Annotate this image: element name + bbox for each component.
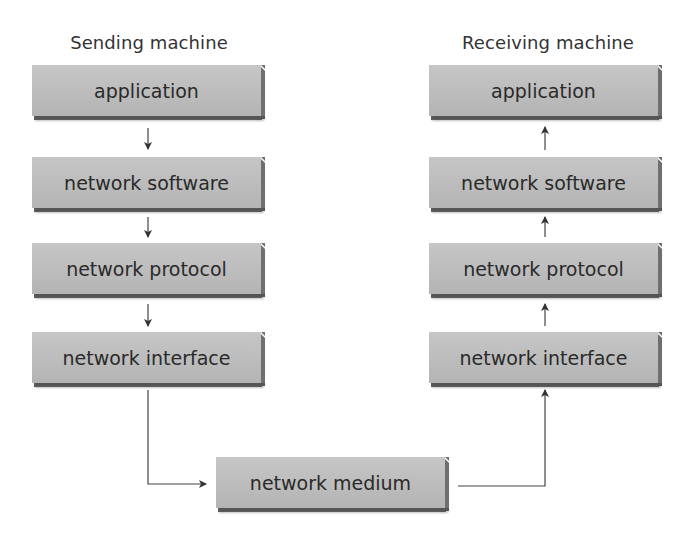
arrow-right-icon [148, 390, 206, 484]
connector-arrows [0, 0, 691, 549]
arrow-up-icon [458, 390, 545, 486]
